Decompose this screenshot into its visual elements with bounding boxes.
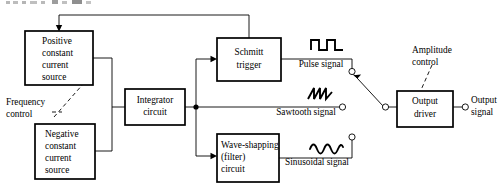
wire-positive-to-integrator: [93, 58, 112, 107]
sawtooth-terminal[interactable]: [339, 104, 345, 110]
block-wave-shaping-circuit[interactable]: Wave-shapping (filter) circuit: [217, 134, 279, 182]
schmitt-line-2: trigger: [237, 60, 263, 70]
frequency-control-leader: [52, 83, 84, 117]
wire-output-driver-to-output: [453, 104, 468, 110]
block-positive-constant-current-source[interactable]: Positive constant current source: [25, 31, 93, 85]
negative-source-line-4: source: [45, 165, 69, 175]
sawtooth-signal-label: Sawtooth signal: [276, 107, 336, 117]
integrator-line-1: Integrator: [137, 95, 175, 105]
sawtooth-wave-icon: [308, 88, 332, 99]
driver-input-terminal[interactable]: [382, 104, 388, 110]
block-schmitt-trigger[interactable]: Schmitt trigger: [217, 38, 281, 81]
output-terminal[interactable]: [462, 104, 468, 110]
negative-source-line-1: Negative: [45, 129, 79, 139]
output-signal-label-line-2: signal: [471, 107, 494, 117]
square-wave-icon: [311, 40, 343, 50]
positive-source-line-4: source: [42, 72, 66, 82]
output-signal-label-line-1: Output: [471, 95, 497, 105]
sinusoid-terminal[interactable]: [349, 134, 355, 140]
frequency-control-label-line-1: Frequency: [6, 97, 46, 107]
frequency-control-label-line-2: control: [6, 109, 33, 119]
selector-switch-icon[interactable]: [353, 74, 397, 110]
block-negative-constant-current-source[interactable]: Negative constant current source: [35, 124, 95, 179]
positive-source-line-3: current: [42, 60, 69, 70]
block-output-driver[interactable]: Output driver: [397, 91, 453, 127]
cropped-caption-remnant: [6, 0, 91, 4]
positive-source-line-2: constant: [42, 48, 73, 58]
waveshaping-line-2: (filter): [221, 152, 245, 163]
amplitude-control-leader: [421, 65, 432, 90]
block-integrator-circuit[interactable]: Integrator circuit: [125, 89, 185, 125]
sinusoidal-signal-label: Sinusoidal signal: [285, 157, 349, 167]
waveshaping-line-3: circuit: [221, 164, 245, 174]
negative-source-line-3: current: [45, 153, 72, 163]
wire-junction-to-waveshaping: [196, 107, 217, 159]
integrator-line-2: circuit: [143, 107, 167, 117]
sine-wave-icon: [310, 145, 343, 154]
wire-junction-to-schmitt: [196, 56, 217, 107]
amplitude-control-label-line-2: control: [412, 57, 439, 67]
positive-source-line-1: Positive: [42, 36, 72, 46]
output-driver-line-1: Output: [412, 96, 438, 106]
waveshaping-line-1: Wave-shapping: [221, 140, 279, 150]
block-diagram: Positive constant current source Negativ…: [0, 0, 502, 189]
wire-sinusoid-line: [279, 134, 355, 158]
output-driver-line-2: driver: [414, 109, 437, 119]
negative-source-line-2: constant: [45, 141, 76, 151]
pulse-signal-label: Pulse signal: [299, 59, 344, 69]
schmitt-line-1: Schmitt: [235, 47, 264, 57]
wire-negative-to-integrator: [95, 107, 112, 151]
amplitude-control-label-line-1: Amplitude: [412, 45, 452, 55]
pulse-terminal[interactable]: [349, 68, 355, 74]
